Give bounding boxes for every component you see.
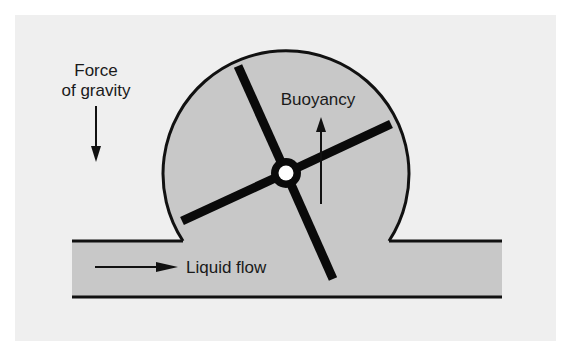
gravity-label-line2: of gravity xyxy=(62,81,131,100)
gravity-label-line1: Force xyxy=(74,61,117,80)
gravity-arrow-icon xyxy=(91,106,101,162)
liquid-flow-label: Liquid flow xyxy=(186,258,267,277)
rotor-axle xyxy=(279,166,294,181)
flow-meter-diagram: Force of gravity Buoyancy Liquid flow xyxy=(0,0,574,358)
buoyancy-label: Buoyancy xyxy=(281,90,356,109)
